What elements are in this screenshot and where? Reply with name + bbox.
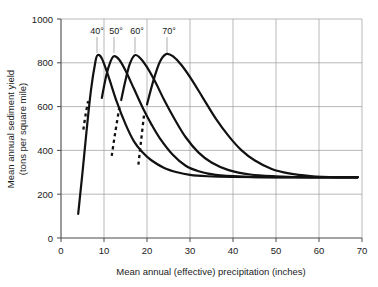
curve-label-70: 70°: [162, 26, 176, 36]
y-tick-label: 200: [37, 189, 53, 200]
x-tick-label: 40: [228, 245, 239, 256]
sediment-yield-chart: 1000 800 600 400 200 0 0 10 20 30 40 50 …: [0, 0, 378, 287]
x-tick-label: 0: [58, 245, 63, 256]
x-axis-tick-labels: 0 10 20 30 40 50 60 70: [58, 245, 367, 256]
y-tick-label: 1000: [32, 14, 53, 25]
x-axis-tickmarks: [61, 238, 362, 242]
y-axis-tickmarks: [57, 19, 61, 238]
y-axis-title-line2: (tons per square mile): [17, 83, 28, 175]
plot-background: [61, 19, 362, 238]
y-tick-label: 800: [37, 57, 53, 68]
y-tick-label: 400: [37, 145, 53, 156]
x-axis-title: Mean annual (effective) precipitation (i…: [116, 266, 305, 277]
curve-label-50: 50°: [109, 26, 123, 36]
curve-label-40: 40°: [90, 26, 104, 36]
curve-label-60: 60°: [130, 26, 144, 36]
x-tick-label: 20: [142, 245, 153, 256]
x-tick-label: 50: [271, 245, 282, 256]
y-axis-tick-labels: 1000 800 600 400 200 0: [32, 14, 53, 244]
chart-figure: 1000 800 600 400 200 0 0 10 20 30 40 50 …: [0, 0, 378, 287]
y-tick-label: 600: [37, 101, 53, 112]
x-tick-label: 10: [99, 245, 110, 256]
y-tick-label: 0: [48, 233, 53, 244]
x-tick-label: 30: [185, 245, 196, 256]
curve-labels: 40° 50° 60° 70°: [90, 26, 176, 36]
y-axis-title-line1: Mean annual sediment yield: [5, 70, 16, 188]
x-tick-label: 70: [357, 245, 368, 256]
x-tick-label: 60: [314, 245, 325, 256]
